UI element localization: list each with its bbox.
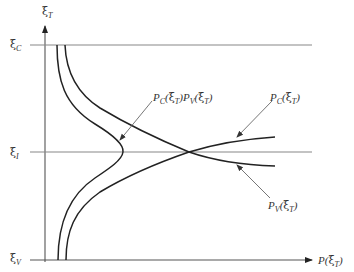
pv-curve-label: PV(ξT) (267, 199, 298, 214)
probability-diagram: ξT P(ξT) ξC ξI ξV PC(ξT)PV(ξT) PC(ξT) PV… (0, 0, 354, 272)
pc-curve-label: PC(ξT) (269, 91, 300, 106)
pv-curve (66, 137, 275, 260)
level-label-intrinsic: ξI (10, 146, 19, 161)
x-axis-label: P(ξT) (317, 254, 343, 269)
y-axis-label: ξT (42, 5, 53, 20)
pv-annotation-arrow (237, 165, 270, 198)
pc-annotation-arrow (237, 101, 272, 137)
pc-curve (65, 45, 275, 166)
level-label-conduction: ξC (10, 38, 22, 53)
product-curve-label: PC(ξT)PV(ξT) (152, 91, 213, 106)
level-label-valence: ξV (10, 252, 22, 267)
